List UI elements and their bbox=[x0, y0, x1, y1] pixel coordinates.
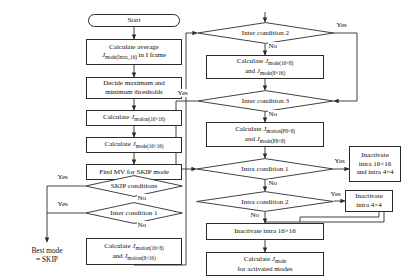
node-calculate-p8x8[interactable]: Calculate Jmotion(P8×8) and Jmode(P8×8) bbox=[206, 122, 324, 147]
skip-conditions-label: SKIP conditions bbox=[110, 182, 158, 190]
cm16-pre: Calculate bbox=[103, 113, 131, 121]
best-mode-skip-text: Best mode = SKIP bbox=[8, 246, 86, 265]
best-mode-line1: Best mode bbox=[31, 246, 62, 255]
node-start-label: Start bbox=[127, 16, 140, 25]
decision-inter-condition-1[interactable]: Inter condition 1 bbox=[85, 202, 183, 224]
decision-inter-condition-2[interactable]: Inter condition 2 bbox=[197, 22, 334, 44]
cmo16-jsub: mode(16×16) bbox=[136, 144, 164, 150]
cm168-jsub: motion(16×8) bbox=[135, 245, 163, 251]
node-calculate-jmode-16x8-8x16[interactable]: Calculate Jmode(16×8) and Jmode(8×16) bbox=[206, 55, 324, 79]
thresholds-line1: Decide maximum and bbox=[103, 79, 165, 88]
inact-both-line2: intra 16×16 bbox=[359, 160, 391, 169]
node-calculate-average-j[interactable]: Calculate average Jmode(Intra_16) in I f… bbox=[86, 39, 182, 65]
inter-condition-1-label: Inter condition 1 bbox=[109, 209, 158, 217]
cmo168-jsub2: mode(8×16) bbox=[260, 70, 285, 76]
label-inter1-yes: Yes bbox=[57, 200, 68, 208]
thresholds-line2: minimum thresholds bbox=[105, 88, 163, 97]
inact-16x16-label: Inactivate intra 16×16 bbox=[234, 227, 296, 236]
inter-condition-3-label: Inter condition 3 bbox=[241, 97, 290, 105]
cja-line2: for activated modes bbox=[238, 265, 293, 274]
cm16-jsub: motion(16×16) bbox=[134, 117, 165, 123]
cm168-jsub2: motion(8×16) bbox=[127, 255, 155, 261]
decision-intra-condition-2[interactable]: Intra condition 2 bbox=[196, 191, 334, 212]
label-intra2-yes: Yes bbox=[330, 190, 341, 198]
label-intra1-yes: Yes bbox=[334, 157, 345, 165]
p88-jsub: motion(P8×8) bbox=[266, 128, 295, 134]
intra-condition-2-label: Intra condition 2 bbox=[240, 198, 289, 206]
node-calculate-jmotion-16x16[interactable]: Calculate Jmotion(16×16) bbox=[86, 110, 182, 126]
inact-both-line3: and intra 4×4 bbox=[356, 168, 393, 177]
cmo168-jsub: mode(16×8) bbox=[268, 61, 293, 67]
cja-jsub: mode bbox=[275, 258, 286, 264]
p88-pre2: and bbox=[245, 135, 257, 143]
best-mode-line2: = SKIP bbox=[36, 255, 58, 264]
label-intra1-no: No bbox=[268, 179, 278, 187]
cmo168-pre: Calculate bbox=[237, 57, 265, 65]
node-inactivate-intra-4x4[interactable]: Inactivate intra 4×4 bbox=[345, 190, 393, 212]
decision-inter-condition-3[interactable]: Inter condition 3 bbox=[197, 90, 334, 112]
calc-avg-line1: Calculate average bbox=[109, 43, 159, 52]
label-inter2-no: No bbox=[268, 42, 278, 50]
intra-condition-1-label: Intra condition 1 bbox=[240, 165, 289, 173]
inter-condition-2-label: Inter condition 2 bbox=[241, 29, 290, 37]
node-start[interactable]: Start bbox=[88, 14, 180, 27]
label-inter2-yes: Yes bbox=[336, 21, 347, 29]
node-inactivate-intra-16x16[interactable]: Inactivate intra 16×16 bbox=[206, 223, 324, 240]
node-inactivate-intra-both[interactable]: Inactivate intra 16×16 and intra 4×4 bbox=[349, 146, 401, 182]
inact-4x4-line2: intra 4×4 bbox=[356, 201, 381, 210]
label-skip-no: No bbox=[137, 194, 147, 202]
decision-intra-condition-1[interactable]: Intra condition 1 bbox=[196, 158, 334, 180]
label-skip-yes: Yes bbox=[57, 173, 68, 181]
label-inter3-yes: Yes bbox=[177, 89, 188, 97]
label-inter1-no: No bbox=[137, 221, 147, 229]
node-calculate-jmotion-16x8-8x16[interactable]: Calculate Jmotion(16×8) and Jmotion(8×16… bbox=[86, 238, 182, 265]
cmo16-pre: Calculate bbox=[105, 140, 133, 148]
inact-both-line1: Inactivate bbox=[361, 151, 388, 160]
node-calculate-jmode-16x16[interactable]: Calculate Jmode(16×16) bbox=[86, 137, 182, 153]
label-inter3-no: No bbox=[268, 110, 278, 118]
cmo168-pre2: and bbox=[245, 67, 257, 75]
node-decide-thresholds[interactable]: Decide maximum and minimum thresholds bbox=[86, 77, 182, 99]
calc-avg-jsub: mode(Intra_16) bbox=[105, 55, 137, 61]
cja-pre: Calculate bbox=[244, 255, 272, 263]
calc-avg-suffix: in I frame bbox=[137, 51, 166, 59]
p88-jsub2: mode(P8×8) bbox=[260, 138, 285, 144]
cm168-pre2: and bbox=[112, 252, 124, 260]
p88-pre: Calculate bbox=[235, 125, 263, 133]
node-calculate-jmode-activated[interactable]: Calculate Jmode for activated modes bbox=[206, 252, 324, 276]
cm168-pre: Calculate bbox=[104, 242, 132, 250]
label-intra2-no: No bbox=[250, 211, 260, 219]
decision-skip-conditions[interactable]: SKIP conditions bbox=[85, 175, 183, 197]
inact-4x4-line1: Inactivate bbox=[355, 192, 382, 201]
